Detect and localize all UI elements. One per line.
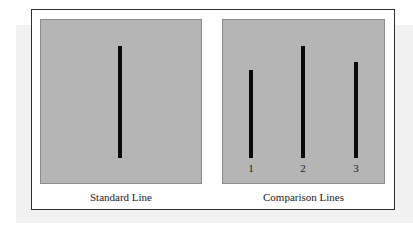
standard-line-caption: Standard Line [40, 190, 202, 204]
comparison-line-label-3: 3 [348, 161, 364, 175]
comparison-line-label-2: 2 [295, 161, 311, 175]
comparison-line-label-1: 1 [243, 161, 259, 175]
comparison-line-3 [354, 62, 358, 158]
comparison-line-2 [301, 46, 305, 158]
comparison-lines-caption: Comparison Lines [222, 190, 385, 204]
standard-line [118, 46, 122, 158]
comparison-line-1 [249, 70, 253, 158]
